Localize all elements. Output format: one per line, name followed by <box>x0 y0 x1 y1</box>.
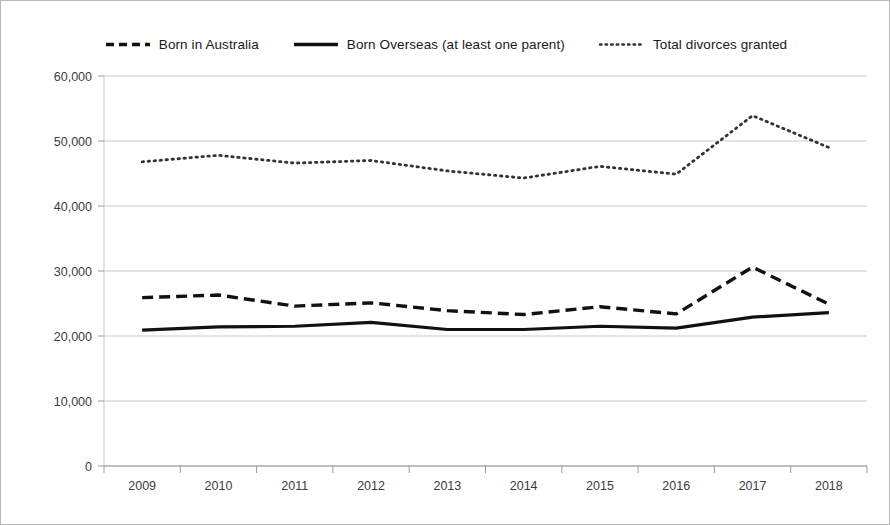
x-axis-tick-label: 2009 <box>128 479 156 493</box>
y-axis-tick-label: 60,000 <box>54 70 92 84</box>
x-axis-tick-label: 2014 <box>510 479 538 493</box>
y-axis-tick-label: 20,000 <box>54 330 92 344</box>
x-axis-tick-label: 2018 <box>815 479 843 493</box>
series-line-3 <box>142 116 829 178</box>
series-lines <box>142 116 829 331</box>
y-axis-tick-label: 0 <box>85 460 92 474</box>
x-axis-tick-label: 2015 <box>586 479 614 493</box>
x-axis-tick-label: 2012 <box>357 479 385 493</box>
x-axis-tick-label: 2017 <box>739 479 767 493</box>
chart-canvas: 010,00020,00030,00040,00050,00060,000 20… <box>1 1 890 525</box>
y-axis-ticks <box>98 76 104 466</box>
x-axis-tick-label: 2011 <box>281 479 308 493</box>
y-axis-tick-label: 50,000 <box>54 135 92 149</box>
x-axis-tick-label: 2016 <box>662 479 690 493</box>
x-axis-ticks <box>104 466 867 473</box>
x-axis-tick-label: 2010 <box>205 479 233 493</box>
y-axis-tick-label: 30,000 <box>54 265 92 279</box>
y-axis-tick-label: 10,000 <box>54 395 92 409</box>
y-axis-tick-label: 40,000 <box>54 200 92 214</box>
x-axis-tick-label: 2013 <box>433 479 461 493</box>
series-line-2 <box>142 313 829 331</box>
plot-area: 010,00020,00030,00040,00050,00060,000 20… <box>1 1 890 525</box>
y-axis-labels: 010,00020,00030,00040,00050,00060,000 <box>54 70 92 474</box>
series-line-1 <box>142 267 829 314</box>
chart-frame: Born in Australia Born Overseas (at leas… <box>0 0 890 525</box>
gridlines <box>104 76 867 466</box>
x-axis-labels: 2009201020112012201320142015201620172018 <box>128 479 843 493</box>
